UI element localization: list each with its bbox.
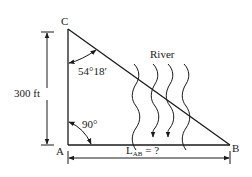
river-line-3 bbox=[166, 64, 174, 137]
river-label: River bbox=[150, 48, 175, 60]
point-a-label: A bbox=[56, 145, 64, 157]
river-line-4 bbox=[182, 64, 190, 150]
surveying-diagram: C A B 300 ft 54°18′ 90° River LAB = ? bbox=[0, 0, 252, 177]
length-label-suffix: = ? bbox=[142, 144, 159, 156]
angle-c-arc bbox=[69, 50, 96, 63]
river-line-2 bbox=[151, 64, 159, 137]
length-label: LAB = ? bbox=[126, 144, 159, 158]
svg-text:LAB = ?: LAB = ? bbox=[126, 144, 159, 158]
point-c-label: C bbox=[61, 15, 68, 27]
point-b-label: B bbox=[232, 142, 239, 154]
height-label: 300 ft bbox=[14, 87, 40, 99]
length-label-subscript: AB bbox=[133, 150, 143, 158]
angle-a-label: 90° bbox=[82, 118, 97, 130]
angle-c-label: 54°18′ bbox=[78, 65, 107, 77]
